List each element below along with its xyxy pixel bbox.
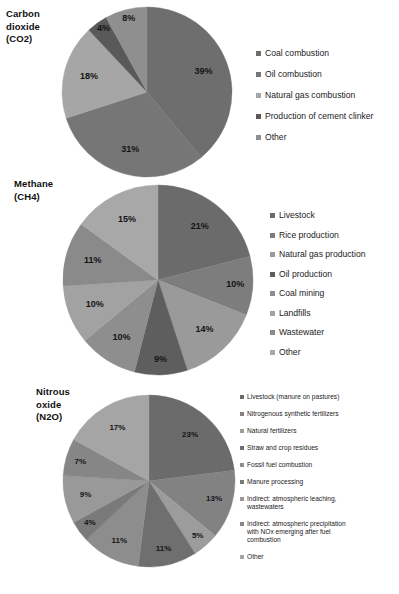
legend-item[interactable]: Straw and crop residues	[240, 444, 399, 452]
legend-swatch-icon	[240, 555, 244, 559]
legend-swatch-icon	[270, 213, 275, 218]
legend-item-label: Fossil fuel combustion	[247, 461, 312, 469]
legend-item[interactable]: Natural gas production	[270, 249, 399, 259]
legend-item[interactable]: Manure processing	[240, 478, 399, 486]
legend-item[interactable]: Indirect: atmospheric leaching, wastewat…	[240, 495, 399, 511]
legend-item-label: Coal combustion	[265, 48, 329, 58]
pie-slice-label: 9%	[80, 490, 92, 499]
legend-swatch-icon	[240, 497, 244, 501]
legend-item[interactable]: Oil combustion	[256, 69, 399, 79]
legend-item[interactable]: Other	[256, 132, 399, 142]
legend-item-label: Livestock	[279, 210, 315, 220]
legend-item-label: Other	[247, 553, 264, 561]
legend-item-label: Nitrogenous synthetic fertilizers	[247, 410, 339, 418]
legend-swatch-icon	[270, 252, 275, 257]
legend-item[interactable]: Fossil fuel combustion	[240, 461, 399, 469]
legend-item-label: Straw and crop residues	[247, 444, 318, 452]
pie-chart-n2o: 23%13%5%11%11%4%9%7%17%	[62, 392, 237, 572]
pie-chart-ch4: 21%10%14%9%10%10%11%15%	[58, 182, 263, 380]
legend-item-label: Natural gas combustion	[265, 90, 355, 100]
pie-slice-label: 4%	[84, 518, 96, 527]
pie-svg-ch4: 21%10%14%9%10%10%11%15%	[58, 182, 263, 380]
pie-slice-label: 7%	[75, 457, 87, 466]
legend-item-label: Rice production	[279, 230, 339, 240]
legend-item-label: Coal mining	[279, 288, 324, 298]
legend-co2: Coal combustionOil combustionNatural gas…	[256, 48, 399, 153]
pie-slice-label: 4%	[97, 23, 110, 33]
legend-swatch-icon	[270, 350, 275, 355]
legend-swatch-icon	[256, 135, 261, 140]
legend-swatch-icon	[240, 429, 244, 433]
pie-slice-label: 21%	[191, 221, 209, 231]
legend-item[interactable]: Natural fertilizers	[240, 427, 399, 435]
legend-item-label: Livestock (manure on pastures)	[247, 393, 339, 401]
legend-item-label: Indirect: atmospheric leaching, wastewat…	[247, 495, 336, 511]
pie-svg-n2o: 23%13%5%11%11%4%9%7%17%	[62, 392, 237, 572]
legend-swatch-icon	[256, 72, 261, 77]
pie-slice-label: 5%	[192, 531, 204, 540]
pie-slice-label: 10%	[113, 332, 131, 342]
pie-slice-label: 13%	[206, 494, 222, 503]
legend-item-label: Indirect: atmospheric precipitation with…	[247, 520, 346, 544]
legend-swatch-icon	[240, 480, 244, 484]
pie-slice-label: 11%	[156, 544, 172, 553]
pie-slice-label: 9%	[154, 354, 167, 364]
legend-swatch-icon	[270, 233, 275, 238]
pie-slice-label: 10%	[86, 299, 104, 309]
legend-item-label: Production of cement clinker	[265, 111, 373, 121]
legend-item-label: Natural fertilizers	[247, 427, 296, 435]
legend-swatch-icon	[270, 272, 275, 277]
pie-slice-label: 15%	[118, 214, 136, 224]
legend-item[interactable]: Coal mining	[270, 288, 399, 298]
legend-item-label: Manure processing	[247, 478, 303, 486]
legend-item[interactable]: Rice production	[270, 230, 399, 240]
pie-slice-label: 10%	[226, 279, 244, 289]
legend-item[interactable]: Indirect: atmospheric precipitation with…	[240, 520, 399, 544]
legend-item[interactable]: Nitrogenous synthetic fertilizers	[240, 410, 399, 418]
pie-slice-label: 18%	[80, 71, 98, 81]
legend-n2o: Livestock (manure on pastures)Nitrogenou…	[240, 393, 399, 570]
legend-swatch-icon	[240, 463, 244, 467]
legend-item-label: Wastewater	[279, 327, 324, 337]
legend-item-label: Oil combustion	[265, 69, 322, 79]
legend-swatch-icon	[270, 330, 275, 335]
legend-swatch-icon	[240, 395, 244, 399]
pie-slice-label: 11%	[112, 536, 128, 545]
legend-swatch-icon	[270, 311, 275, 316]
legend-swatch-icon	[240, 412, 244, 416]
pie-chart-co2: 39%31%18%4%8%	[60, 4, 235, 182]
legend-swatch-icon	[240, 446, 244, 450]
legend-swatch-icon	[256, 114, 261, 119]
legend-item[interactable]: Wastewater	[270, 327, 399, 337]
legend-item[interactable]: Coal combustion	[256, 48, 399, 58]
pie-slice-label: 31%	[121, 144, 139, 154]
pie-slice-label: 17%	[109, 423, 125, 432]
legend-ch4: LivestockRice productionNatural gas prod…	[270, 210, 399, 366]
legend-item[interactable]: Other	[240, 553, 399, 561]
legend-swatch-icon	[256, 51, 261, 56]
legend-item[interactable]: Other	[270, 347, 399, 357]
pie-slice-label: 23%	[182, 430, 198, 439]
legend-item-label: Other	[279, 347, 301, 357]
pie-svg-co2: 39%31%18%4%8%	[60, 4, 235, 182]
legend-item[interactable]: Production of cement clinker	[256, 111, 399, 121]
pie-slice-label: 11%	[84, 255, 102, 265]
pie-slice-label: 39%	[194, 66, 212, 76]
legend-item[interactable]: Livestock	[270, 210, 399, 220]
legend-item[interactable]: Natural gas combustion	[256, 90, 399, 100]
legend-swatch-icon	[270, 291, 275, 296]
legend-item[interactable]: Landfills	[270, 308, 399, 318]
legend-item[interactable]: Oil production	[270, 269, 399, 279]
pie-slice-label: 8%	[122, 13, 135, 23]
legend-swatch-icon	[240, 522, 244, 526]
legend-item-label: Oil production	[279, 269, 332, 279]
legend-item-label: Other	[265, 132, 287, 142]
pie-slice-label: 14%	[195, 324, 213, 334]
legend-swatch-icon	[256, 93, 261, 98]
legend-item-label: Landfills	[279, 308, 311, 318]
legend-item-label: Natural gas production	[279, 249, 365, 259]
legend-item[interactable]: Livestock (manure on pastures)	[240, 393, 399, 401]
